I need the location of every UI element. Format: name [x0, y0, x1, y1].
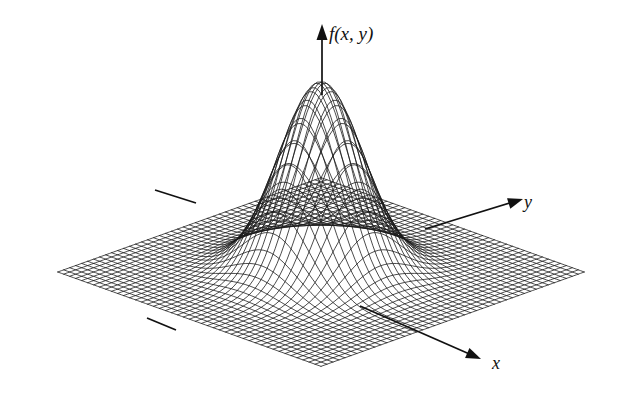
surface-plot-figure: f(x, y) y x — [0, 0, 638, 406]
f-axis-label: f(x, y) — [329, 23, 373, 45]
y-axis-label: y — [522, 192, 532, 212]
x-axis-label: x — [491, 353, 500, 373]
surface-plot-canvas: f(x, y) y x — [0, 0, 638, 406]
